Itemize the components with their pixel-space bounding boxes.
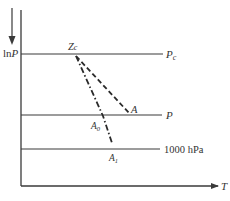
down-arrow-icon	[9, 8, 16, 45]
x-axis-label: T	[221, 180, 228, 192]
point-label-zc: Zc	[68, 41, 78, 52]
point-label-a: A	[130, 104, 138, 115]
point-label-a0-sub: 0	[97, 125, 101, 132]
level-label-pc: Pc	[165, 48, 177, 62]
point-label-a1: A1	[108, 153, 118, 164]
level-label-p: P	[165, 109, 173, 121]
lnp-t-diagram: lnP T Pc P 1000 hPa Zc A A0 A1	[0, 0, 230, 201]
point-label-a0: A0	[90, 121, 101, 132]
y-axis-label: lnP	[3, 47, 19, 59]
level-label-1000hpa: 1000 hPa	[164, 144, 204, 155]
point-label-zc-sub: c	[74, 43, 78, 52]
point-label-a1-sub: 1	[115, 157, 118, 164]
curve-dashed-zc-a	[76, 56, 130, 114]
level-label-pc-sub: c	[173, 53, 177, 62]
y-axis-label-var: P	[11, 47, 19, 59]
